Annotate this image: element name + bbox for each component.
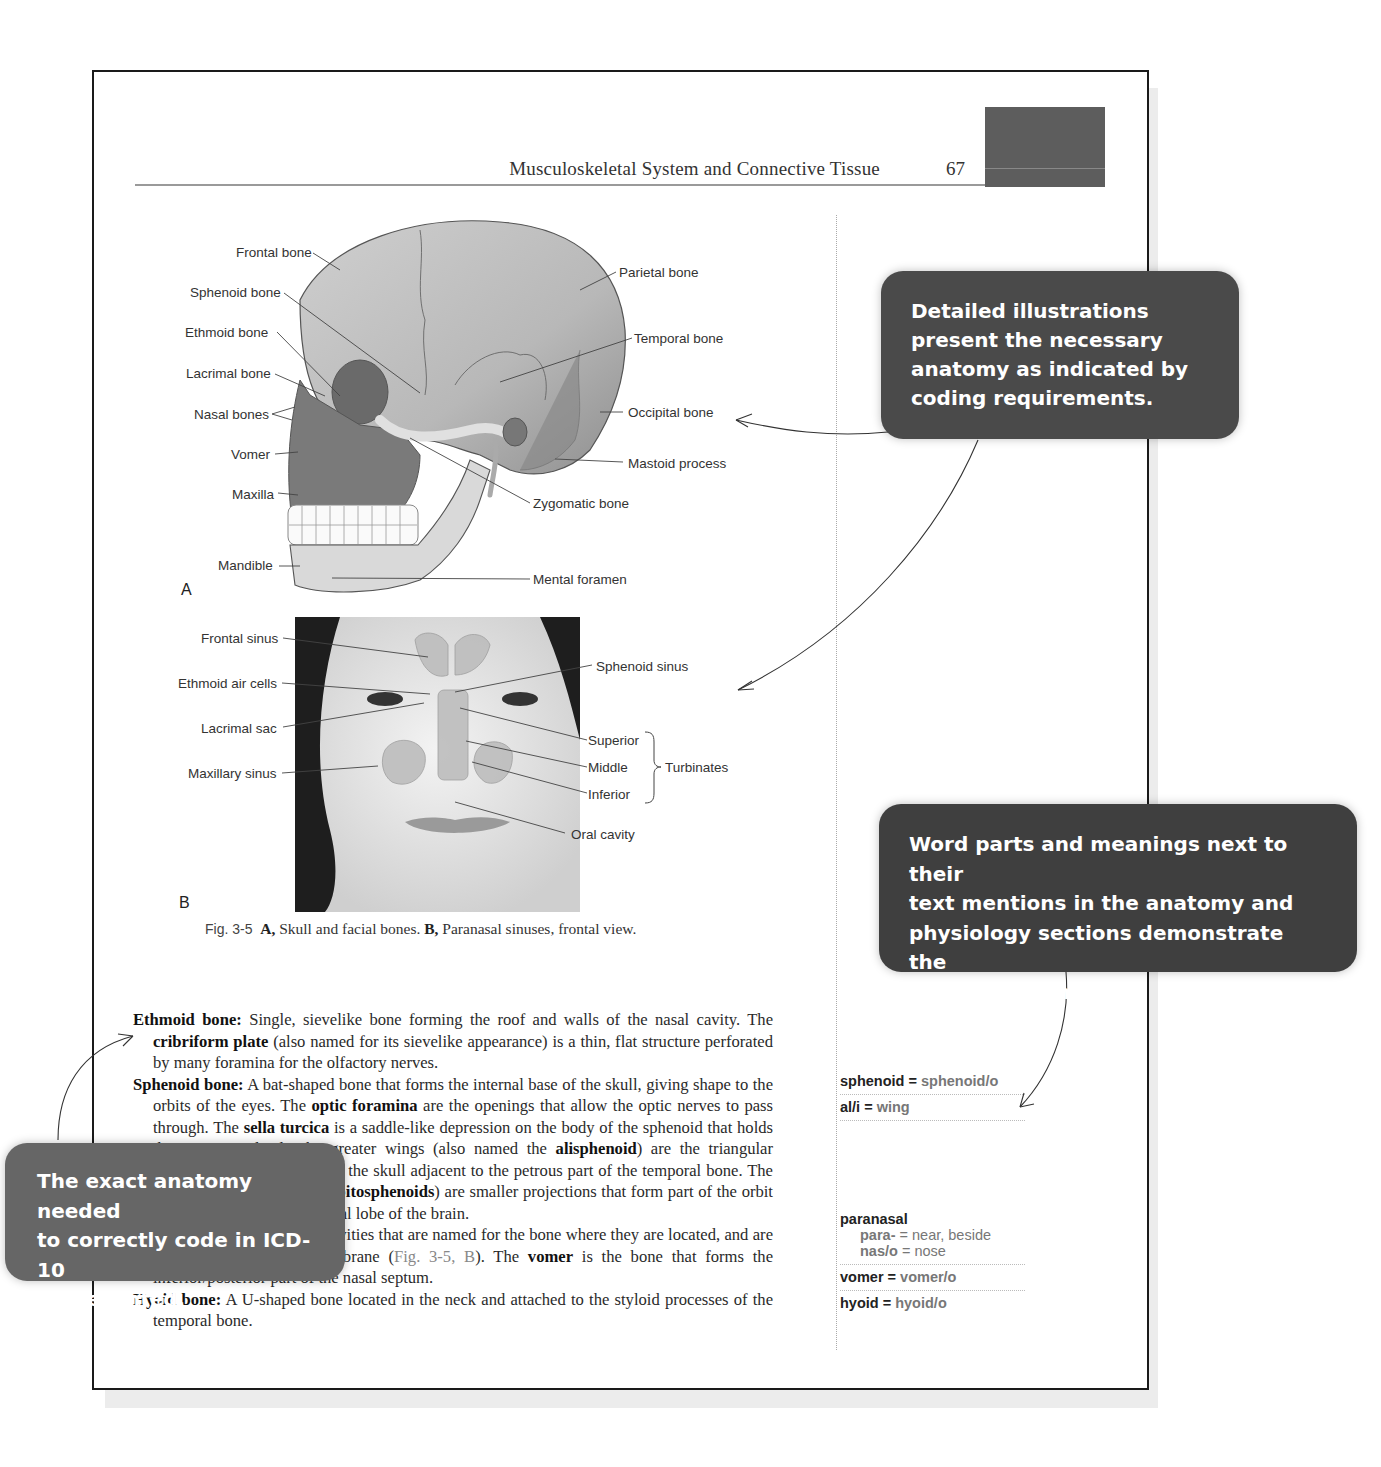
figure-reference-link[interactable]: Fig. 3-5, B: [394, 1247, 475, 1266]
label-middle: Middle: [588, 760, 628, 775]
label-zygomatic-bone: Zygomatic bone: [533, 496, 629, 511]
label-turbinates: Turbinates: [665, 760, 728, 775]
label-ethmoid-bone: Ethmoid bone: [185, 325, 268, 340]
label-maxillary-sinus: Maxillary sinus: [188, 766, 277, 781]
label-mastoid-process: Mastoid process: [628, 456, 726, 471]
label-oral-cavity: Oral cavity: [571, 827, 635, 842]
word-parts-sidebar-1: sphenoid = sphenoid/o al/i = wing: [840, 1069, 1025, 1121]
column-divider: [836, 215, 837, 1350]
panel-letter-b: B: [179, 894, 190, 912]
word-part-vomer: vomer = vomer/o: [840, 1265, 1025, 1291]
label-mental-foramen: Mental foramen: [533, 572, 627, 587]
label-parietal-bone: Parietal bone: [619, 265, 699, 280]
label-maxilla: Maxilla: [232, 487, 274, 502]
word-part-paranasal: paranasal para- = near, beside nas/o = n…: [840, 1207, 1025, 1265]
header-rule: [135, 184, 985, 186]
label-ethmoid-air-cells: Ethmoid air cells: [178, 676, 277, 691]
label-inferior: Inferior: [588, 787, 630, 802]
label-lacrimal-bone: Lacrimal bone: [186, 366, 271, 381]
label-vomer: Vomer: [231, 447, 270, 462]
word-part-ali: al/i = wing: [840, 1095, 1025, 1121]
figure-caption: Fig. 3-5 A, Skull and facial bones. B, P…: [205, 920, 636, 938]
label-occipital-bone: Occipital bone: [628, 405, 714, 420]
callout-icd10: The exact anatomy needed to correctly co…: [5, 1143, 345, 1281]
running-head: Musculoskeletal System and Connective Ti…: [135, 156, 1105, 186]
label-mandible: Mandible: [218, 558, 273, 573]
callout-word-parts: Word parts and meanings next to their te…: [879, 804, 1357, 972]
label-frontal-bone: Frontal bone: [236, 245, 312, 260]
word-parts-sidebar-2: paranasal para- = near, beside nas/o = n…: [840, 1207, 1025, 1316]
page-number: 67: [946, 158, 965, 180]
label-nasal-bones: Nasal bones: [194, 407, 269, 422]
label-sphenoid-sinus: Sphenoid sinus: [596, 659, 688, 674]
label-temporal-bone: Temporal bone: [634, 331, 723, 346]
callout-illustrations: Detailed illustrations present the neces…: [881, 271, 1239, 439]
word-part-sphenoid: sphenoid = sphenoid/o: [840, 1069, 1025, 1095]
word-part-naso: nas/o = nose: [840, 1243, 1025, 1259]
entry-ethmoid-bone: Ethmoid bone: Single, sievelike bone for…: [133, 1009, 773, 1074]
word-part-para: para- = near, beside: [840, 1227, 1025, 1243]
label-frontal-sinus: Frontal sinus: [201, 631, 278, 646]
panel-letter-a: A: [181, 581, 192, 599]
word-part-hyoid: hyoid = hyoid/o: [840, 1291, 1025, 1316]
label-lacrimal-sac: Lacrimal sac: [201, 721, 277, 736]
chapter-title: Musculoskeletal System and Connective Ti…: [509, 158, 880, 180]
label-sphenoid-bone: Sphenoid bone: [190, 285, 281, 300]
label-superior: Superior: [588, 733, 639, 748]
